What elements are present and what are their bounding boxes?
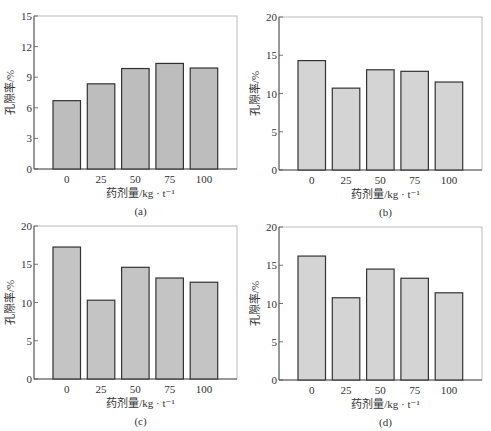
x-tick-label: 100 [441, 384, 458, 396]
x-tick-label: 25 [341, 174, 353, 186]
bar [332, 88, 360, 170]
y-tick-label: 15 [266, 49, 278, 61]
bar [401, 71, 429, 170]
bar [367, 269, 395, 380]
bar [122, 69, 150, 169]
bar [190, 68, 218, 169]
x-tick-label: 75 [409, 384, 421, 396]
x-axis-label: 药剂量/kg · t⁻¹ [351, 397, 419, 410]
bar [53, 247, 81, 379]
y-tick-label: 5 [27, 335, 33, 347]
x-tick-label: 50 [130, 383, 142, 395]
panel-label: (a) [134, 205, 147, 218]
bar [87, 300, 115, 379]
x-tick-label: 75 [409, 174, 421, 186]
y-tick-label: 15 [21, 258, 33, 270]
x-tick-label: 100 [196, 173, 213, 185]
x-tick-label: 0 [309, 384, 315, 396]
bar [156, 63, 184, 169]
bar [298, 61, 326, 170]
x-axis-label: 药剂量/kg · t⁻¹ [106, 396, 174, 409]
chart-panel-d: 051015200255075100药剂量/kg · t⁻¹孔隙率/%(d) [248, 221, 482, 429]
x-tick-label: 25 [341, 384, 353, 396]
chart-panel-a: 036912150255075100药剂量/kg · t⁻¹孔隙率/%(a) [3, 10, 237, 218]
x-tick-label: 0 [309, 174, 315, 186]
x-tick-label: 25 [96, 383, 108, 395]
panel-label: (b) [379, 206, 392, 219]
x-axis-label: 药剂量/kg · t⁻¹ [351, 187, 419, 200]
bar [298, 256, 326, 380]
y-tick-label: 6 [27, 102, 33, 114]
x-tick-label: 100 [441, 174, 458, 186]
x-tick-label: 50 [130, 173, 142, 185]
y-tick-label: 20 [21, 220, 33, 232]
y-tick-label: 20 [266, 221, 278, 233]
y-axis-label: 孔隙率/% [3, 280, 16, 325]
panel-label: (d) [379, 416, 392, 429]
x-axis-label: 药剂量/kg · t⁻¹ [106, 186, 174, 199]
y-axis-label: 孔隙率/% [248, 71, 261, 116]
y-tick-label: 5 [272, 336, 278, 348]
y-tick-label: 3 [27, 132, 33, 144]
x-tick-label: 50 [375, 384, 387, 396]
chart-panel-b: 051015200255075100药剂量/kg · t⁻¹孔隙率/%(b) [248, 11, 482, 219]
y-tick-label: 10 [266, 298, 278, 310]
y-tick-label: 0 [27, 373, 33, 385]
figure: 036912150255075100药剂量/kg · t⁻¹孔隙率/%(a)05… [0, 0, 491, 431]
y-tick-label: 15 [21, 10, 33, 22]
chart-panel-c: 051015200255075100药剂量/kg · t⁻¹孔隙率/%(c) [3, 220, 237, 428]
y-tick-label: 0 [27, 163, 33, 175]
y-tick-label: 15 [266, 259, 278, 271]
bar [87, 84, 115, 169]
bar [367, 70, 395, 170]
bar [401, 278, 429, 380]
x-tick-label: 75 [164, 383, 176, 395]
bar [435, 293, 463, 380]
x-tick-label: 0 [64, 173, 70, 185]
x-tick-label: 100 [196, 383, 213, 395]
bar [332, 298, 360, 380]
y-tick-label: 0 [272, 374, 278, 386]
y-axis-label: 孔隙率/% [248, 281, 261, 326]
y-tick-label: 0 [272, 164, 278, 176]
y-tick-label: 5 [272, 126, 278, 138]
x-tick-label: 50 [375, 174, 387, 186]
panel-label: (c) [134, 415, 147, 428]
y-tick-label: 9 [27, 71, 33, 83]
bar [190, 282, 218, 379]
x-tick-label: 0 [64, 383, 70, 395]
y-tick-label: 10 [266, 88, 278, 100]
x-tick-label: 25 [96, 173, 108, 185]
y-tick-label: 20 [266, 11, 278, 23]
bar [435, 82, 463, 170]
x-tick-label: 75 [164, 173, 176, 185]
y-tick-label: 12 [21, 41, 32, 53]
bar [53, 101, 81, 169]
bar [122, 267, 150, 379]
y-axis-label: 孔隙率/% [3, 70, 16, 115]
bar [156, 278, 184, 379]
y-tick-label: 10 [21, 297, 33, 309]
